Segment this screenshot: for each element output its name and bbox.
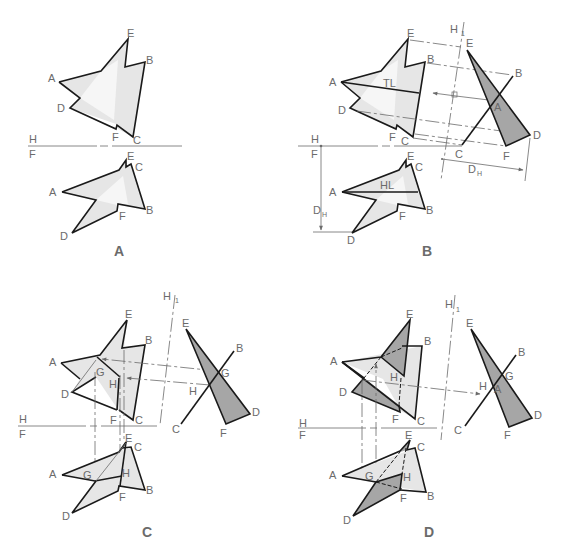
aux-vertex-label-h: H xyxy=(479,380,487,392)
aux-vertex-label-f: F xyxy=(504,429,511,441)
vertex-label-e: E xyxy=(407,27,414,39)
vertex-label-d: D xyxy=(62,510,70,522)
vertex-label-d: D xyxy=(60,230,68,242)
vertex-label-h: H xyxy=(122,467,130,479)
vertex-label-h: H xyxy=(390,371,398,383)
aux-vertex-label-h: H xyxy=(189,385,197,397)
vertex-label-b: B xyxy=(426,204,433,216)
aux-vertex-label-a: A xyxy=(494,383,502,395)
aux-vertex-label-c: C xyxy=(454,424,462,436)
true-length-label: TL xyxy=(383,77,396,89)
vertex-label-a: A xyxy=(49,186,57,198)
aux-vertex-label-b: B xyxy=(236,342,243,354)
vertex-label-b: B xyxy=(424,335,431,347)
aux-fold-label-h: H xyxy=(445,298,453,310)
vertex-label-b: B xyxy=(146,54,153,66)
vertex-label-f: F xyxy=(392,413,399,425)
vertex-label-f: F xyxy=(399,210,406,222)
fold-label-f: F xyxy=(29,148,36,160)
vertex-label-f: F xyxy=(112,131,119,143)
vertex-label-g: G xyxy=(365,470,374,482)
vertex-label-f: F xyxy=(119,491,126,503)
vertex-label-e: E xyxy=(127,27,134,39)
vertex-label-d: D xyxy=(61,388,69,400)
vertex-label-a: A xyxy=(329,469,337,481)
panel-caption-c: C xyxy=(142,524,152,540)
aux-vertex-label-b: B xyxy=(518,346,525,358)
aux-vertex-label-a: A xyxy=(494,101,502,113)
dimension-subscript-front: H xyxy=(322,211,327,218)
vertex-label-d: D xyxy=(339,386,347,398)
aux-vertex-label-g: G xyxy=(505,370,514,382)
vertex-label-a: A xyxy=(329,76,337,88)
aux-vertex-label-e: E xyxy=(466,317,473,329)
vertex-label-h: H xyxy=(109,378,117,390)
fold-label-h: H xyxy=(299,417,307,429)
panel-d-aux-view xyxy=(465,329,532,427)
fold-label-f: F xyxy=(19,428,26,440)
horizontal-line-label: HL xyxy=(380,179,394,191)
vertex-label-b: B xyxy=(146,204,153,216)
fold-label-f: F xyxy=(299,429,306,441)
panel-d-front-view xyxy=(342,440,426,516)
vertex-label-a: A xyxy=(49,356,57,368)
aux-fold-label-1: 1 xyxy=(456,306,460,313)
vertex-label-e: E xyxy=(125,432,132,444)
vertex-label-a: A xyxy=(48,72,56,84)
panel-b: TL H 1 H F E B A D F C xyxy=(298,22,541,259)
panel-c: H 1 H F E B A G H D F C E B G H D C F xyxy=(18,290,260,540)
vertex-label-f: F xyxy=(389,131,396,143)
vertex-label-f: F xyxy=(110,414,117,426)
vertex-label-c: C xyxy=(415,161,423,173)
aux-vertex-label-c: C xyxy=(172,423,180,435)
panel-d: H 1 H F E B A H D F C E B G H A D C F xyxy=(298,295,542,540)
panel-a: H F E B A D F C E C A B F D A xyxy=(28,27,182,259)
vertex-label-f: F xyxy=(119,210,126,222)
vertex-label-d: D xyxy=(338,104,346,116)
dimension-label: D xyxy=(468,163,476,175)
vertex-label-c: C xyxy=(134,441,142,453)
vertex-label-c: C xyxy=(135,414,143,426)
vertex-label-b: B xyxy=(427,490,434,502)
aux-fold-label-1: 1 xyxy=(461,30,465,37)
vertex-label-c: C xyxy=(417,441,425,453)
aux-fold-label-1: 1 xyxy=(175,297,179,304)
vertex-label-a: A xyxy=(49,468,57,480)
vertex-label-c: C xyxy=(135,161,143,173)
panel-caption-b: B xyxy=(422,243,432,259)
vertex-label-e: E xyxy=(407,150,414,162)
aux-vertex-label-b: B xyxy=(515,67,522,79)
vertex-label-c: C xyxy=(133,134,141,146)
vertex-label-g: G xyxy=(83,469,92,481)
vertex-label-d: D xyxy=(347,234,355,246)
aux-vertex-label-e: E xyxy=(182,317,189,329)
vertex-label-b: B xyxy=(145,334,152,346)
aux-vertex-label-f: F xyxy=(220,427,227,439)
vertex-label-e: E xyxy=(127,150,134,162)
aux-vertex-label-e: E xyxy=(466,37,473,49)
panel-b-front-view xyxy=(342,160,425,233)
fold-label-f: F xyxy=(311,148,318,160)
vertex-label-e: E xyxy=(406,308,413,320)
panel-a-front-view xyxy=(62,160,145,233)
aux-fold-label-h: H xyxy=(450,23,458,35)
vertex-label-b: B xyxy=(427,53,434,65)
panel-caption-d: D xyxy=(424,524,434,540)
vertex-label-a: A xyxy=(329,186,337,198)
vertex-label-b: B xyxy=(146,484,153,496)
dimension-subscript: H xyxy=(477,170,482,177)
aux-vertex-label-d: D xyxy=(534,409,542,421)
aux-vertex-label-f: F xyxy=(503,150,510,162)
dimension-label-front: D xyxy=(313,204,321,216)
fold-label-h: H xyxy=(29,133,37,145)
vertex-label-a: A xyxy=(330,355,338,367)
fold-label-h: H xyxy=(19,413,27,425)
vertex-label-c: C xyxy=(401,135,409,147)
vertex-label-e: E xyxy=(405,429,412,441)
panel-c-front-view xyxy=(62,442,145,513)
vertex-label-e: E xyxy=(125,308,132,320)
panel-d-horizontal-view xyxy=(342,320,422,419)
vertex-label-h: H xyxy=(403,471,411,483)
vertex-label-d: D xyxy=(343,514,351,526)
aux-fold-label-h: H xyxy=(163,290,171,302)
